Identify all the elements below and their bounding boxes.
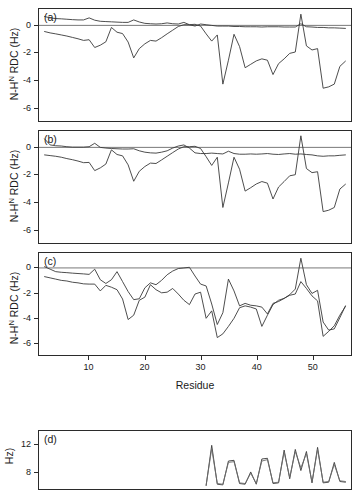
y-tick-label: -2	[0, 169, 31, 179]
y-tick-label: 0	[0, 142, 31, 152]
panel-d-series-layer	[39, 431, 351, 489]
y-tick-mark	[34, 174, 38, 175]
y-tick-mark	[34, 444, 38, 445]
panel-b-series-layer	[39, 131, 351, 243]
x-tick-mark	[145, 356, 146, 360]
panel-c-series-layer	[39, 253, 351, 355]
x-tick-label: 50	[308, 362, 318, 372]
y-tick-label: 0	[0, 20, 31, 30]
panel-a-letter: (a)	[44, 11, 57, 23]
y-tick-label: -6	[0, 103, 31, 113]
x-tick-label: 10	[83, 362, 93, 372]
panel-a-plot-area	[38, 8, 352, 122]
y-tick-mark	[34, 80, 38, 81]
panel-b-letter: (b)	[44, 133, 57, 145]
series-line	[206, 445, 345, 485]
y-tick-label: -2	[0, 47, 31, 57]
y-tick-label: -4	[0, 313, 31, 323]
y-tick-mark	[34, 230, 38, 231]
y-tick-label: 0	[0, 262, 31, 272]
y-tick-mark	[34, 202, 38, 203]
y-tick-label: -4	[0, 197, 31, 207]
x-tick-label: 30	[196, 362, 206, 372]
y-tick-label: -2	[0, 288, 31, 298]
y-axis-label-d-tail: Hz)	[3, 448, 15, 464]
panel-c-plot-area	[38, 252, 352, 356]
panel-c-letter: (c)	[44, 255, 56, 267]
series-line	[45, 277, 346, 338]
y-tick-label: -4	[0, 75, 31, 85]
y-tick-label: 8	[0, 467, 31, 477]
y-tick-mark	[34, 267, 38, 268]
y-tick-mark	[34, 52, 38, 53]
y-tick-mark	[34, 318, 38, 319]
y-tick-mark	[34, 472, 38, 473]
x-tick-label: 40	[252, 362, 262, 372]
x-tick-mark	[257, 356, 258, 360]
x-tick-mark	[201, 356, 202, 360]
x-tick-mark	[313, 356, 314, 360]
panel-a-series-layer	[39, 9, 351, 121]
y-tick-mark	[34, 293, 38, 294]
panel-d-letter: (d)	[44, 433, 57, 445]
y-tick-mark	[34, 147, 38, 148]
x-tick-mark	[88, 356, 89, 360]
panel-b-plot-area	[38, 130, 352, 244]
y-tick-mark	[34, 343, 38, 344]
y-tick-label: -6	[0, 338, 31, 348]
y-tick-mark	[34, 108, 38, 109]
x-axis-label-c: Residue	[38, 379, 352, 391]
y-tick-label: -6	[0, 225, 31, 235]
y-tick-mark	[34, 25, 38, 26]
y-tick-label: 12	[0, 439, 31, 449]
panel-d-plot-area	[38, 430, 352, 490]
x-tick-label: 20	[140, 362, 150, 372]
series-line	[206, 449, 345, 485]
